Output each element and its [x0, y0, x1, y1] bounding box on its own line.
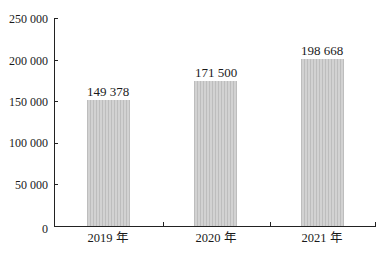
x-tick [163, 222, 164, 226]
y-axis [54, 18, 55, 226]
x-axis [54, 226, 376, 227]
bar-value-label: 171 500 [176, 66, 256, 79]
x-tick [270, 222, 271, 226]
y-tick-label: 50 000 [15, 179, 48, 191]
y-tick-label: 100 000 [9, 137, 48, 149]
bar-value-label: 149 378 [68, 85, 148, 98]
y-tick-label: 150 000 [9, 96, 48, 108]
x-category-label: 2020 年 [176, 232, 256, 245]
bar-2019 [87, 100, 130, 226]
bar-value-label: 198 668 [282, 44, 362, 57]
bar-2020 [194, 81, 237, 226]
y-tick-label: 250 000 [9, 13, 48, 25]
x-category-label: 2019 年 [68, 232, 148, 245]
y-tick-label: 200 000 [9, 55, 48, 67]
x-tick [375, 222, 376, 226]
bar-2021 [301, 59, 344, 226]
bar-chart: 250 000 200 000 150 000 100 000 50 000 0… [0, 0, 389, 258]
x-category-label: 2021 年 [282, 232, 362, 245]
y-tick-label: 0 [42, 223, 48, 235]
